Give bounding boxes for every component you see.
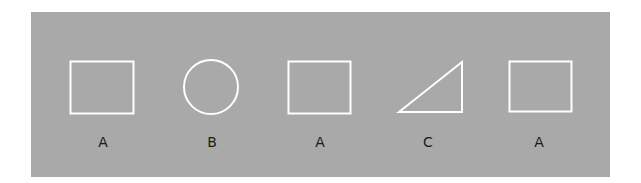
figure-label-2: B	[197, 134, 227, 150]
square-shape-2	[289, 62, 351, 114]
square-shape-1	[71, 62, 134, 114]
figure-label-5: A	[524, 134, 554, 150]
circle-shape	[184, 60, 238, 114]
square-shape-3	[510, 62, 572, 112]
figure-label-1: A	[88, 134, 118, 150]
shapes-canvas	[0, 0, 641, 183]
figure-label-4: C	[413, 134, 443, 150]
triangle-shape	[399, 62, 462, 112]
figure-label-3: A	[305, 134, 335, 150]
